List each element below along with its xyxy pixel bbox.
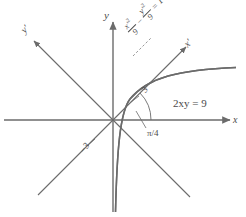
hyperbola-branch-upper-right bbox=[116, 68, 237, 213]
hyperbola-branch-lower-left bbox=[116, 68, 237, 213]
rotated-eq-equals: = 1 bbox=[149, 0, 165, 12]
angle-arc bbox=[140, 93, 151, 120]
y-prime-axis bbox=[34, 41, 190, 197]
y-axis-label: y bbox=[104, 10, 109, 21]
hyperbola-equation-label: 2xy = 9 bbox=[173, 98, 207, 109]
x-axis-label: x bbox=[233, 115, 237, 125]
plot-canvas bbox=[0, 0, 246, 217]
equation-leader-line bbox=[133, 37, 152, 56]
hyperbola-figure: y x y′ x′ 2xy = 9 π/4 3 −3 x′2 9 − y′2 9… bbox=[0, 0, 246, 217]
rotation-angle-label: π/4 bbox=[147, 129, 159, 138]
x-prime-axis bbox=[38, 47, 186, 195]
